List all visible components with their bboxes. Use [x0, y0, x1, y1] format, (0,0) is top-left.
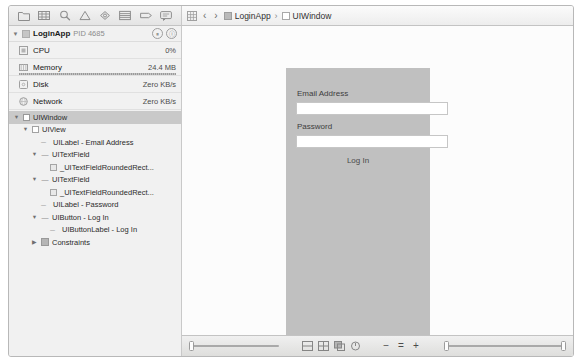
tree-row-label: UITextField	[52, 175, 90, 184]
tree-row[interactable]: ▼—UITextField	[9, 149, 181, 162]
tree-row[interactable]: —UIButtonLabel - Log In	[9, 224, 181, 237]
email-address-label: Email Address	[297, 89, 348, 98]
debugger-bottom-bar: − = +	[182, 335, 573, 356]
view-depth-slider-knob-right[interactable]	[561, 341, 566, 351]
tree-row[interactable]: —UILabel - Email Address	[9, 136, 181, 149]
grid-icon[interactable]	[187, 11, 197, 21]
breadcrumb-item-app[interactable]: LoginApp	[235, 11, 271, 21]
tree-row[interactable]: ▼UIWindow	[9, 111, 181, 124]
pause-gauge-button[interactable]: ⏸	[152, 28, 163, 39]
zoom-button-group: − = +	[380, 341, 422, 351]
zoom-actual-size-button[interactable]: =	[395, 341, 407, 351]
xcode-window: ‹ › LoginApp › UIWindow ▼ LoginApp PID 4…	[8, 5, 574, 357]
button-icon: —	[41, 214, 49, 221]
disclosure-triangle[interactable]: ▼	[22, 127, 29, 133]
network-icon	[19, 97, 28, 106]
tree-row-label: Constraints	[52, 238, 90, 247]
orientation-button[interactable]	[349, 340, 362, 352]
main-body: ▼ LoginApp PID 4685 ⏸ ⓘ CPU 0% Memory	[9, 26, 573, 356]
tree-row[interactable]: —UILabel - Password	[9, 199, 181, 212]
disk-icon	[19, 80, 28, 89]
process-header[interactable]: ▼ LoginApp PID 4685 ⏸ ⓘ	[9, 26, 181, 42]
label-icon: —	[41, 139, 50, 145]
constraints-icon	[41, 238, 49, 246]
back-button[interactable]: ‹	[201, 11, 208, 21]
tree-row-label: UILabel - Email Address	[53, 138, 133, 147]
view-spacing-slider[interactable]	[189, 341, 279, 352]
view-spacing-slider-knob[interactable]	[189, 341, 194, 351]
rounded-rect-icon	[50, 189, 57, 196]
view-icon	[32, 126, 39, 133]
view-mode-button-group	[301, 340, 362, 352]
process-twisty[interactable]: ▼	[12, 31, 19, 37]
gauge-row-disk[interactable]: Disk Zero KB/s	[9, 76, 181, 93]
gauge-value-cpu: 0%	[165, 46, 176, 55]
log-in-button[interactable]: Log In	[286, 156, 430, 165]
breadcrumb-item-window[interactable]: UIWindow	[293, 11, 332, 21]
info-gauge-button[interactable]: ⓘ	[166, 28, 177, 39]
forward-button[interactable]: ›	[212, 11, 219, 21]
password-label: Password	[297, 122, 332, 131]
tree-row-label: _UITextFieldRoundedRect...	[60, 163, 154, 172]
breadcrumb: LoginApp › UIWindow	[224, 11, 332, 21]
disclosure-triangle[interactable]: ▼	[31, 177, 38, 183]
label-icon: —	[41, 202, 50, 208]
tree-row[interactable]: ▼UIView	[9, 124, 181, 137]
gauge-row-memory[interactable]: Memory 24.4 MB	[9, 59, 181, 76]
app-icon	[224, 12, 232, 20]
password-field[interactable]	[296, 135, 448, 148]
tree-row-label: UILabel - Password	[53, 200, 118, 209]
tree-row[interactable]: ▼—UIButton - Log In	[9, 211, 181, 224]
tree-row[interactable]: ▼—UITextField	[9, 174, 181, 187]
view-hierarchy-tree: ▼UIWindow▼UIView—UILabel - Email Address…	[9, 110, 181, 356]
tree-row[interactable]: ▶Constraints	[9, 236, 181, 249]
clipped-content-button[interactable]	[333, 340, 346, 352]
debug-navigator-sidebar: ▼ LoginApp PID 4685 ⏸ ⓘ CPU 0% Memory	[9, 26, 182, 356]
report-navigator-icon[interactable]	[159, 9, 172, 22]
symbol-navigator-icon[interactable]	[58, 9, 71, 22]
tree-row-label: UIButtonLabel - Log In	[62, 225, 137, 234]
tree-row-label: UITextField	[52, 150, 90, 159]
tree-row[interactable]: _UITextFieldRoundedRect...	[9, 186, 181, 199]
view-debugger-canvas[interactable]: Email Address Password Log In	[182, 26, 573, 335]
gauge-row-cpu[interactable]: CPU 0%	[9, 42, 181, 59]
test-navigator-icon[interactable]	[99, 9, 112, 22]
breadcrumb-separator: ›	[275, 11, 278, 21]
label-icon: —	[50, 227, 59, 233]
zoom-out-button[interactable]: −	[380, 341, 392, 351]
collapse-depth-button[interactable]	[301, 340, 314, 352]
tree-row-label: _UITextFieldRoundedRect...	[60, 188, 154, 197]
cpu-icon	[19, 46, 28, 55]
view-depth-slider-knob-left[interactable]	[444, 341, 449, 351]
window-icon	[23, 114, 30, 121]
tree-row[interactable]: _UITextFieldRoundedRect...	[9, 161, 181, 174]
breakpoint-navigator-icon[interactable]	[139, 9, 152, 22]
email-address-field[interactable]	[296, 102, 448, 115]
canvas-area: Email Address Password Log In	[182, 26, 573, 356]
gauge-label-memory: Memory	[33, 63, 143, 72]
textfield-icon: —	[41, 176, 49, 183]
source-control-navigator-icon[interactable]	[38, 9, 51, 22]
gauge-row-network[interactable]: Network Zero KB/s	[9, 93, 181, 110]
gauge-value-memory: 24.4 MB	[148, 63, 176, 72]
top-toolbar-row: ‹ › LoginApp › UIWindow	[9, 6, 573, 26]
project-navigator-icon[interactable]	[18, 9, 31, 22]
memory-usage-bar	[19, 73, 176, 75]
process-pid: PID 4685	[73, 29, 104, 38]
debug-navigator-icon[interactable]	[119, 9, 132, 22]
issue-navigator-icon[interactable]	[78, 9, 91, 22]
disclosure-triangle[interactable]: ▶	[31, 240, 38, 246]
window-icon	[282, 12, 290, 20]
gauge-value-disk: Zero KB/s	[143, 80, 176, 89]
disclosure-triangle[interactable]: ▼	[31, 152, 38, 158]
tree-row-label: UIButton - Log In	[52, 213, 109, 222]
jump-bar: ‹ › LoginApp › UIWindow	[182, 6, 573, 26]
disclosure-triangle[interactable]: ▼	[13, 115, 20, 121]
disclosure-triangle[interactable]: ▼	[31, 215, 38, 221]
zoom-in-button[interactable]: +	[410, 341, 422, 351]
tree-row-label: UIView	[42, 125, 66, 134]
tree-row-label: UIWindow	[33, 113, 67, 122]
view-spacing-slider-track	[189, 345, 279, 347]
view-depth-slider[interactable]	[444, 341, 566, 352]
expand-depth-button[interactable]	[317, 340, 330, 352]
